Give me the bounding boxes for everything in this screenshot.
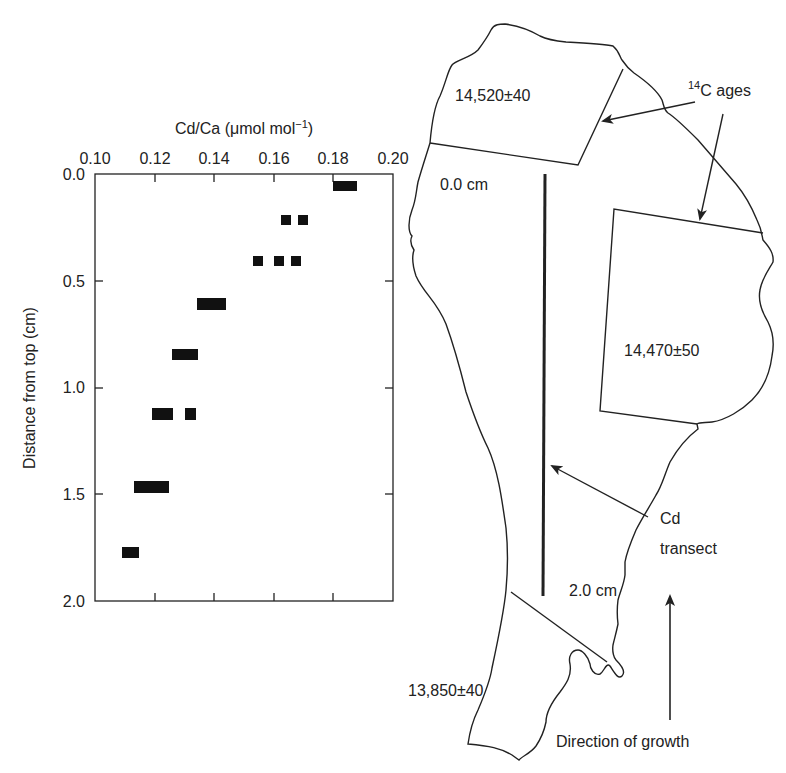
start-distance-label: 0.0 cm [440,176,488,193]
data-point [152,408,173,420]
data-point [274,256,284,266]
c14-arrow-top [603,102,695,121]
age-block-bottom-cut [511,592,607,662]
data-point [298,215,308,225]
data-point [122,547,139,558]
plot-frame [95,174,393,601]
age-label-bottom: 13,850±40 [408,682,484,699]
y-tick-labels: 0.0 0.5 1.0 1.5 2.0 [63,166,85,610]
x-tick-labels: 0.10 0.12 0.14 0.16 0.18 0.20 [79,150,408,167]
cd-ca-chart: Cd/Ca (μmol mol−1) 0.10 0.12 0.14 0.16 0… [21,118,409,610]
x-tick-label: 0.10 [79,150,110,167]
x-tick-label: 0.20 [377,150,408,167]
data-point [291,256,301,266]
y-tick-label: 2.0 [63,593,85,610]
data-markers [122,181,357,558]
data-point [253,256,263,266]
data-point [197,298,226,310]
age-label-right: 14,470±50 [624,342,700,359]
end-distance-label: 2.0 cm [569,582,617,599]
y-axis-title: Distance from top (cm) [21,307,38,469]
cd-transect-label-line1: Cd [660,510,680,527]
growth-direction-label: Direction of growth [556,733,689,750]
x-axis-title: Cd/Ca (μmol mol−1) [175,118,313,137]
cd-transect-arrow [552,466,648,517]
age-block-right [600,209,763,424]
data-point [185,408,196,420]
tick-marks [95,174,393,601]
age-label-top: 14,520±40 [455,87,531,104]
diagram-labels: 14,520±40 14C ages 0.0 cm 14,470±50 Cd t… [408,79,751,750]
data-point [333,181,357,191]
cd-transect-label-line2: transect [660,540,717,557]
y-tick-label: 0.0 [63,166,85,183]
cd-transect-line [543,174,545,596]
y-tick-label: 1.0 [63,379,85,396]
c14-arrow-right [700,114,723,219]
x-tick-label: 0.18 [317,150,348,167]
x-tick-label: 0.12 [139,150,170,167]
data-point [281,215,291,225]
specimen-diagram [409,24,773,760]
data-point [134,481,169,493]
data-point [172,349,198,360]
figure: Cd/Ca (μmol mol−1) 0.10 0.12 0.14 0.16 0… [0,0,786,773]
y-tick-label: 0.5 [63,273,85,290]
y-tick-label: 1.5 [63,486,85,503]
c14-ages-label: 14C ages [688,79,751,99]
age-block-top [430,69,623,165]
x-tick-label: 0.16 [258,150,289,167]
x-tick-label: 0.14 [198,150,229,167]
